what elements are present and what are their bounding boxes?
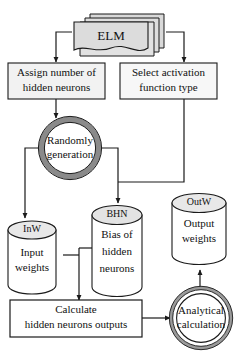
edge-select-activation-to-bias-hidden bbox=[118, 99, 184, 182]
randomly-generation-node bbox=[38, 116, 101, 179]
bias-hidden-body bbox=[92, 215, 142, 297]
bias-hidden-top bbox=[92, 206, 142, 225]
analytical-outer-ring bbox=[171, 288, 231, 348]
flowchart-canvas bbox=[0, 0, 247, 359]
output-weights-top bbox=[172, 194, 226, 213]
input-weights-top bbox=[8, 221, 56, 239]
random-generation-ring bbox=[42, 120, 99, 177]
output-weights-cylinder bbox=[172, 194, 226, 265]
edge-elm-to-assign-neurons bbox=[56, 32, 72, 62]
select-activation-box bbox=[120, 63, 217, 99]
elm-flowchart: ELM Assign number of hidden neurons Sele… bbox=[0, 0, 247, 359]
analytical-calculation-node bbox=[169, 286, 232, 349]
edge-elm-to-select-activation bbox=[166, 32, 184, 62]
input-weights-body bbox=[8, 230, 56, 294]
calculate-outputs-box bbox=[10, 300, 142, 337]
input-weights-cylinder bbox=[8, 221, 56, 294]
elm-node bbox=[74, 14, 164, 56]
elm-sheet-front bbox=[74, 22, 148, 51]
assign-neurons-box bbox=[8, 63, 105, 99]
bias-hidden-cylinder bbox=[92, 206, 142, 297]
